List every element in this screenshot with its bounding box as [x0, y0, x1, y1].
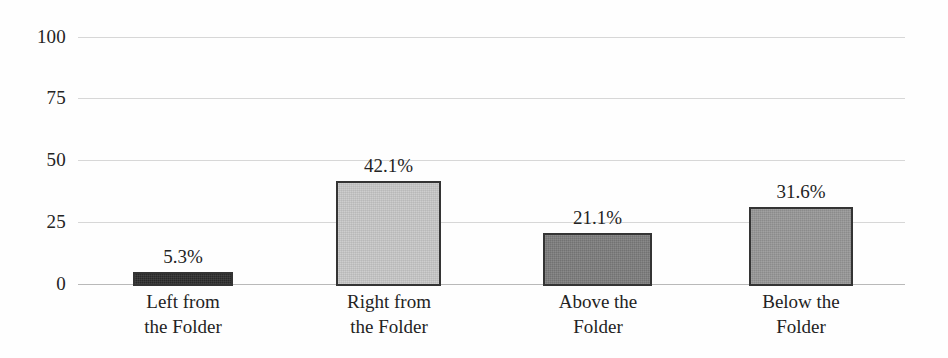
value-label-left-from-the-folder: 5.3%	[133, 247, 233, 267]
value-label-below-the-folder: 31.6%	[749, 182, 853, 202]
category-label-line2: Folder	[731, 314, 871, 339]
category-label-line1: Left from	[146, 291, 219, 312]
category-label-line2: the Folder	[318, 314, 460, 339]
category-label-above-the-folder: Above the Folder	[528, 289, 668, 339]
category-label-right-from-the-folder: Right from the Folder	[318, 289, 460, 339]
plot-area: 5.3% Left from the Folder 42.1% Right fr…	[0, 0, 948, 358]
category-label-line2: Folder	[528, 314, 668, 339]
bar-chart: 100 75 50 25 0 5.3% Left from the Folder…	[0, 0, 948, 358]
category-label-left-from-the-folder: Left from the Folder	[113, 289, 253, 339]
category-label-below-the-folder: Below the Folder	[731, 289, 871, 339]
category-label-line1: Above the	[559, 291, 638, 312]
bar-above-the-folder[interactable]	[543, 233, 652, 286]
value-label-right-from-the-folder: 42.1%	[336, 156, 441, 176]
bar-left-from-the-folder[interactable]	[133, 272, 233, 286]
category-label-line1: Below the	[762, 291, 840, 312]
value-label-above-the-folder: 21.1%	[543, 208, 652, 228]
bar-right-from-the-folder[interactable]	[336, 181, 441, 286]
category-label-line2: the Folder	[113, 314, 253, 339]
bar-below-the-folder[interactable]	[749, 207, 853, 286]
category-label-line1: Right from	[347, 291, 431, 312]
